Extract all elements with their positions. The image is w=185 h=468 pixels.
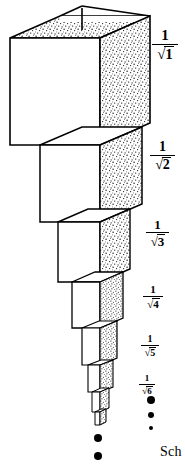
box-6-right-face (100, 360, 113, 392)
box-4-right-face (100, 272, 123, 328)
box-group-4 (72, 272, 123, 328)
box-5-front-face (82, 328, 100, 365)
box-group-1 (10, 6, 150, 145)
box-1-right-face (100, 16, 150, 145)
figure-root: 1 √1 1 √2 1 √3 1 √4 1 √5 1 √6 (0, 0, 185, 468)
box-group-8 (95, 409, 106, 425)
box-6-front-face (88, 365, 100, 392)
box-7-front-face (92, 392, 100, 412)
box-group-6 (88, 360, 113, 392)
box-8-front-face (95, 412, 100, 425)
box-3-right-face (100, 209, 130, 282)
box-8-right-face (100, 409, 106, 425)
box-7-right-face (100, 388, 109, 412)
cuboid-tower-illustration (0, 0, 185, 468)
box-5-right-face (100, 321, 117, 365)
box-1-top-rear-edge (60, 6, 82, 16)
box-4-front-face (72, 282, 100, 328)
box-group-3 (58, 209, 130, 282)
box-group-5 (82, 321, 117, 365)
box-group-2 (40, 127, 142, 222)
box-1-top-rear-edge-2 (82, 6, 150, 16)
